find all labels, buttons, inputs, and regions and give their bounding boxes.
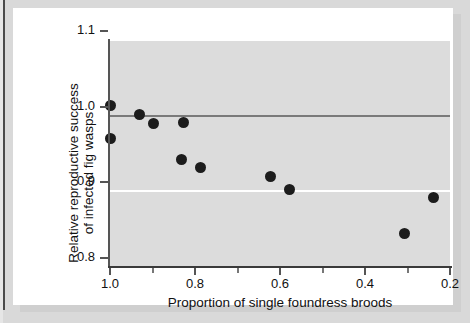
y-tick-mark (100, 30, 108, 32)
data-point (178, 117, 189, 128)
figure-root: Relative reproductive success of infecte… (0, 0, 470, 323)
x-tick-mark (449, 268, 451, 275)
card-shadow-right (453, 14, 461, 312)
y-tick-label-group: 1.11.00.90.8 (13, 8, 98, 308)
x-axis-title: Proportion of single foundress broods (110, 295, 450, 310)
x-tick-label: 1.0 (101, 276, 119, 291)
y-tick-label: 0.8 (77, 249, 95, 264)
x-tick-label: 0.2 (441, 276, 459, 291)
x-tick-minor (152, 268, 154, 273)
gridline-y (110, 39, 450, 41)
data-point (265, 171, 276, 182)
x-tick-mark (364, 268, 366, 275)
y-tick-label: 1.0 (77, 98, 95, 113)
data-point (105, 133, 116, 144)
reference-line (110, 115, 450, 117)
data-point (134, 109, 145, 120)
y-axis-line (108, 39, 110, 268)
x-tick-mark (279, 268, 281, 275)
data-point (399, 228, 410, 239)
x-tick-minor (322, 268, 324, 273)
x-tick-minor (237, 268, 239, 273)
x-tick-minor (407, 268, 409, 273)
y-tick-mark (100, 181, 108, 183)
data-point (176, 154, 187, 165)
figure-card: Relative reproductive success of infecte… (13, 8, 453, 305)
x-tick-mark (194, 268, 196, 275)
plot-area (110, 39, 450, 266)
gridline-y (110, 190, 450, 192)
y-tick-mark (100, 257, 108, 259)
data-point (148, 118, 159, 129)
data-point (195, 162, 206, 173)
page-edge-rule (3, 0, 5, 310)
y-tick-mark (100, 106, 108, 108)
data-point (428, 192, 439, 203)
y-tick-label: 0.9 (77, 173, 95, 188)
x-tick-mark (109, 268, 111, 275)
x-tick-label: 0.6 (271, 276, 289, 291)
x-tick-label: 0.8 (186, 276, 204, 291)
y-tick-label: 1.1 (77, 22, 95, 37)
x-tick-label: 0.4 (356, 276, 374, 291)
data-point (284, 184, 295, 195)
